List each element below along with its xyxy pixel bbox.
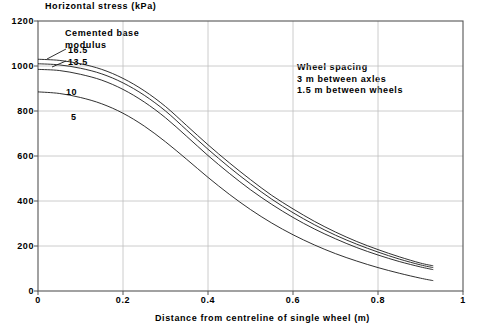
curve-5: [38, 92, 433, 281]
data-curves: [38, 59, 433, 280]
plot-canvas: [0, 0, 482, 329]
curve-10: [38, 69, 433, 269]
chart-figure: Horizontal stress (kPa) Distance from ce…: [0, 0, 482, 329]
curve-13.5: [38, 64, 433, 268]
grid-lines: [38, 21, 463, 291]
axis-ticks: [34, 21, 463, 295]
leader-line-16.5: [47, 49, 66, 59]
curve-16.5: [38, 59, 433, 266]
